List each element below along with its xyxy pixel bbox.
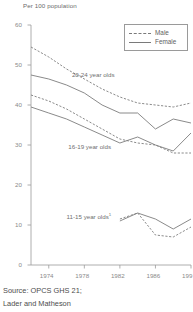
y-tick-label: 30 (6, 141, 22, 148)
x-tick-label: 1986 (146, 272, 160, 279)
y-tick-label: 20 (6, 181, 22, 188)
legend-entry-female: Female (129, 38, 187, 47)
y-axis-ticks (28, 25, 32, 265)
series-line (31, 75, 191, 129)
x-tick-label: 1974 (40, 272, 54, 279)
x-tick-label: 1982 (111, 272, 125, 279)
series-annotation: 11-15 year olds1 (67, 212, 112, 220)
legend-swatch-solid (129, 42, 151, 43)
y-tick-label: 60 (6, 21, 22, 28)
x-tick-label: 1978 (75, 272, 89, 279)
y-tick-label: 10 (6, 221, 22, 228)
x-axis-ticks (49, 265, 191, 269)
x-tick-label: 199 (182, 272, 192, 279)
y-tick-label: 50 (6, 61, 22, 68)
chart-legend: Male Female (124, 24, 188, 51)
y-tick-label: 0 (6, 261, 22, 268)
series-annotation: 20-24 year olds (72, 71, 115, 78)
legend-swatch-dashed (129, 33, 151, 34)
y-axis-title: Per 100 population (23, 2, 77, 9)
y-tick-label: 40 (6, 101, 22, 108)
legend-label-female: Female (155, 38, 176, 45)
series-line (31, 95, 191, 153)
source-line-2: Lader and Matheson (3, 299, 71, 308)
series-line (31, 107, 191, 151)
source-line-1: Source: OPCS GHS 21; (3, 286, 82, 295)
legend-label-male: Male (155, 29, 169, 36)
series-annotation: 16-19 year olds (68, 143, 111, 150)
series-line (120, 213, 191, 229)
